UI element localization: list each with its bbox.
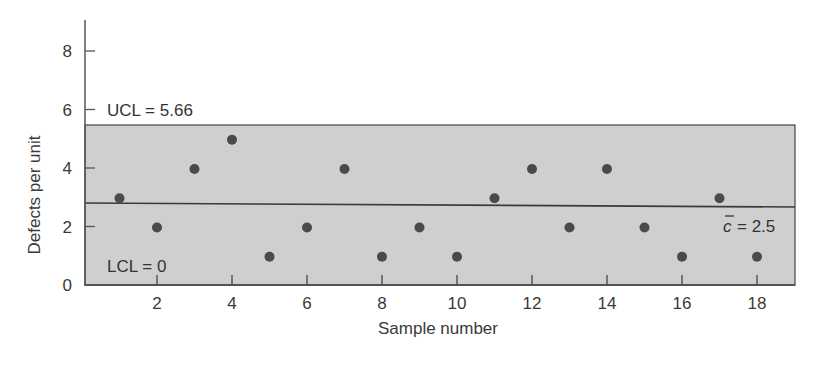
data-point bbox=[490, 193, 500, 203]
x-axis-title: Sample number bbox=[378, 319, 498, 338]
x-tick-label: 6 bbox=[302, 294, 311, 313]
center-value-label: = 2.5 bbox=[737, 217, 775, 236]
data-point bbox=[190, 164, 200, 174]
center-line-label: c = 2.5 bbox=[723, 216, 775, 236]
y-axis-title: Defects per unit bbox=[25, 135, 44, 254]
x-tick-label: 8 bbox=[377, 294, 386, 313]
data-point bbox=[565, 223, 575, 233]
y-tick-label: 8 bbox=[63, 42, 72, 61]
data-point bbox=[602, 164, 612, 174]
data-point bbox=[640, 223, 650, 233]
y-tick-label: 6 bbox=[63, 101, 72, 120]
y-tick-label: 4 bbox=[63, 159, 72, 178]
y-tick-label: 0 bbox=[63, 276, 72, 295]
data-point bbox=[677, 252, 687, 262]
data-point bbox=[752, 252, 762, 262]
data-point bbox=[302, 223, 312, 233]
data-point bbox=[340, 164, 350, 174]
lcl-label: LCL = 0 bbox=[107, 257, 166, 276]
x-tick-label: 10 bbox=[448, 294, 467, 313]
data-point bbox=[115, 193, 125, 203]
c-chart: 02468 24681012141618 UCL = 5.66 LCL = 0 … bbox=[0, 0, 813, 369]
x-tick-label: 18 bbox=[748, 294, 767, 313]
data-point bbox=[415, 223, 425, 233]
x-tick-label: 12 bbox=[523, 294, 542, 313]
x-tick-label: 2 bbox=[152, 294, 161, 313]
data-point bbox=[377, 252, 387, 262]
y-tick-label: 2 bbox=[63, 218, 72, 237]
ucl-label: UCL = 5.66 bbox=[107, 101, 193, 120]
x-tick-label: 14 bbox=[598, 294, 617, 313]
data-point bbox=[715, 193, 725, 203]
data-point bbox=[265, 252, 275, 262]
data-point bbox=[452, 252, 462, 262]
data-point bbox=[527, 164, 537, 174]
x-tick-label: 4 bbox=[227, 294, 236, 313]
data-point bbox=[152, 223, 162, 233]
x-tick-label: 16 bbox=[673, 294, 692, 313]
data-point bbox=[227, 135, 237, 145]
c-bar-symbol: c bbox=[723, 217, 732, 236]
